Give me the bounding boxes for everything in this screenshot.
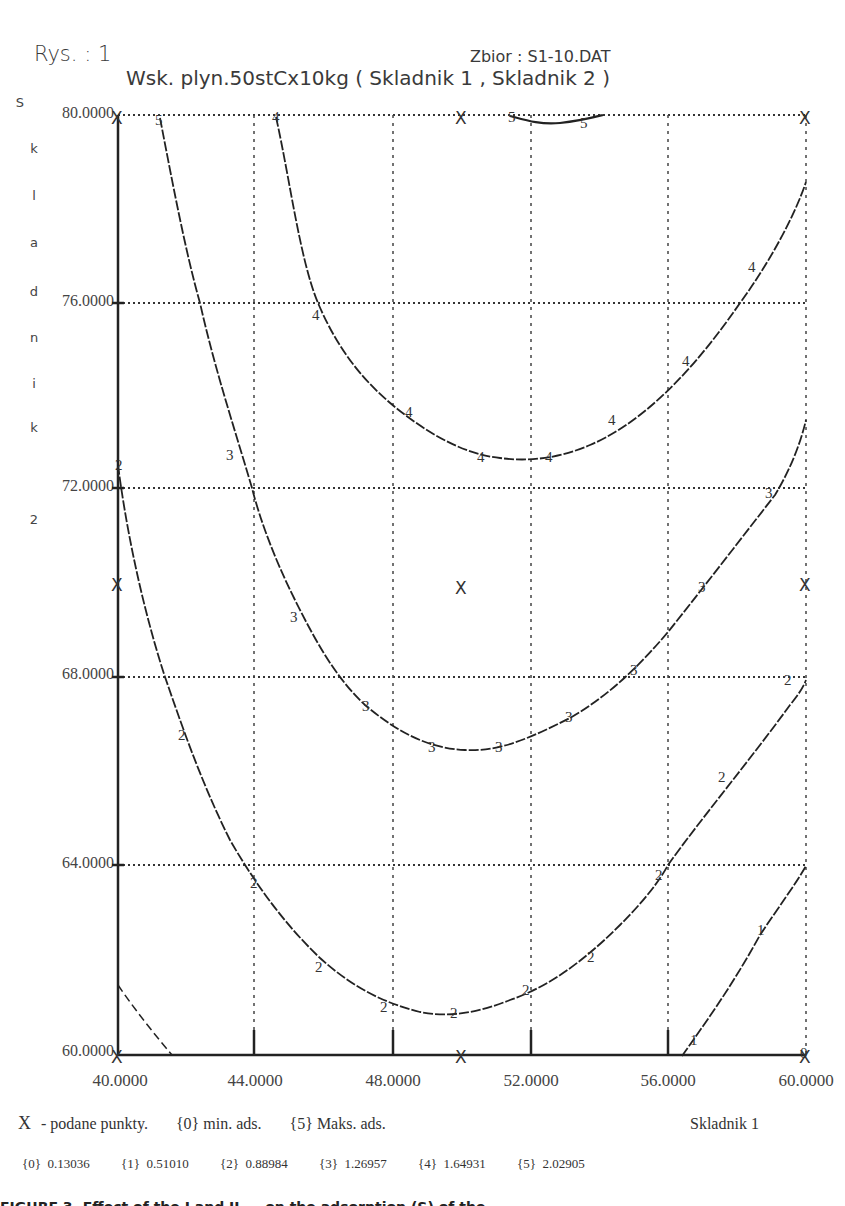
contour-5 xyxy=(510,115,603,123)
grid-horizontal xyxy=(118,115,806,865)
legend-marker-text: - podane punkty. xyxy=(41,1115,148,1132)
svg-text:3: 3 xyxy=(630,662,638,678)
svg-text:2: 2 xyxy=(178,727,186,743)
svg-text:5: 5 xyxy=(155,112,163,128)
svg-text:2: 2 xyxy=(380,999,388,1015)
x-marker-icon: X xyxy=(111,575,123,595)
svg-text:4: 4 xyxy=(272,109,280,125)
legend-min-text: {0} min. ads. xyxy=(176,1115,262,1132)
svg-text:2: 2 xyxy=(784,672,792,688)
legend: X - podane punkty. {0} min. ads. {5} Mak… xyxy=(18,1113,386,1134)
level-item: {0} 0.13036 xyxy=(22,1156,90,1171)
level-item: {1} 0.51010 xyxy=(121,1156,189,1171)
level-item: {3} 1.26957 xyxy=(319,1156,387,1171)
svg-text:4: 4 xyxy=(405,404,413,420)
contour-3 xyxy=(160,118,806,750)
svg-text:3: 3 xyxy=(495,739,503,755)
svg-text:5: 5 xyxy=(580,115,588,131)
svg-text:3: 3 xyxy=(698,579,706,595)
x-axis-label: Skladnik 1 xyxy=(690,1115,759,1133)
given-points: X X X X X X X X X xyxy=(111,108,811,1067)
contour-4 xyxy=(276,117,806,459)
level-item: {2} 0.88984 xyxy=(220,1156,288,1171)
legend-max-text: {5} Maks. ads. xyxy=(290,1115,386,1132)
svg-text:2: 2 xyxy=(115,457,123,473)
svg-text:3: 3 xyxy=(362,698,370,714)
svg-text:2: 2 xyxy=(522,982,530,998)
svg-text:4: 4 xyxy=(545,449,553,465)
x-marker-icon: X xyxy=(111,1047,123,1067)
grid-vertical xyxy=(254,115,806,1055)
figure-caption: FIGURE 3. Effect of the I and II ... on … xyxy=(0,1194,506,1206)
contour-levels: {0} 0.13036 {1} 0.51010 {2} 0.88984 {3} … xyxy=(22,1156,613,1172)
svg-text:4: 4 xyxy=(682,353,690,369)
svg-text:1: 1 xyxy=(690,1032,698,1048)
contour-2 xyxy=(118,465,806,1014)
x-marker-icon: X xyxy=(111,108,123,128)
contour-1-right xyxy=(682,866,806,1056)
svg-text:4: 4 xyxy=(477,449,485,465)
x-marker-icon: X xyxy=(799,575,811,595)
svg-text:2: 2 xyxy=(450,1005,458,1021)
svg-text:4: 4 xyxy=(312,307,320,323)
svg-text:2: 2 xyxy=(718,769,726,785)
svg-text:4: 4 xyxy=(608,412,616,428)
level-item: {5} 2.02905 xyxy=(517,1156,585,1171)
svg-text:3: 3 xyxy=(765,485,773,501)
contour-plot: 5 5 5 4 4 4 4 4 4 4 4 3 3 3 3 3 3 3 3 3 … xyxy=(0,0,845,1206)
x-marker-icon: X xyxy=(455,1047,467,1067)
svg-text:5: 5 xyxy=(508,109,516,125)
x-marker-icon: X xyxy=(455,108,467,128)
svg-text:1: 1 xyxy=(757,922,765,938)
svg-text:2: 2 xyxy=(587,949,595,965)
svg-text:2: 2 xyxy=(315,959,323,975)
x-marker-icon: X xyxy=(455,578,467,598)
svg-text:3: 3 xyxy=(226,447,234,463)
svg-text:2: 2 xyxy=(655,867,663,883)
svg-text:3: 3 xyxy=(428,739,436,755)
svg-text:3: 3 xyxy=(290,609,298,625)
svg-text:2: 2 xyxy=(250,875,258,891)
svg-text:3: 3 xyxy=(565,709,573,725)
contour-1-left xyxy=(118,985,172,1055)
level-item: {4} 1.64931 xyxy=(418,1156,486,1171)
x-marker-icon: X xyxy=(799,1047,811,1067)
x-marker-icon: X xyxy=(18,1113,31,1133)
x-marker-icon: X xyxy=(799,108,811,128)
svg-text:4: 4 xyxy=(748,259,756,275)
